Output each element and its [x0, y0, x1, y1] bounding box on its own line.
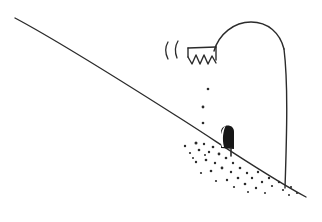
stipple-dot: [203, 143, 205, 145]
ledge-horizontal-bar: [188, 47, 216, 48]
stipple-dot: [210, 170, 213, 173]
stipple-dot: [215, 180, 217, 182]
stipple-dot: [296, 192, 298, 194]
stipple-dot: [208, 151, 210, 153]
paper-background: [0, 0, 322, 222]
stipple-dot: [205, 159, 208, 162]
stipple-dot: [246, 172, 248, 174]
stipple-dot: [184, 145, 186, 147]
stipple-dot: [268, 177, 270, 179]
stipple-dot: [261, 181, 263, 183]
stipple-dot: [257, 171, 259, 173]
stipple-dot: [221, 167, 224, 170]
trail-dot: [202, 106, 205, 109]
stipple-dot: [239, 167, 242, 170]
stipple-dot: [264, 192, 266, 194]
stipple-dot: [282, 189, 284, 191]
stipple-dot: [232, 162, 234, 164]
stipple-dot: [271, 185, 273, 187]
sketch-canvas: [0, 0, 322, 222]
stipple-dot: [247, 191, 249, 193]
stipple-dot: [251, 177, 253, 179]
stipple-dot: [189, 152, 191, 154]
stipple-dot: [244, 183, 247, 186]
stipple-dot: [198, 149, 201, 152]
stipple-dot: [204, 154, 206, 156]
stipple-dot: [290, 186, 292, 188]
stipple-dot: [255, 187, 257, 189]
trail-dot: [207, 88, 210, 91]
stipple-dot: [200, 172, 202, 174]
stipple-dot: [212, 146, 215, 149]
stipple-dot: [218, 153, 221, 156]
stipple-dot: [195, 142, 198, 145]
stipple-dot: [192, 157, 194, 159]
sketch-drawing: [0, 0, 322, 222]
stipple-dot: [237, 177, 240, 180]
stipple-dot: [225, 157, 228, 160]
stipple-dot: [226, 179, 228, 181]
stipple-dot: [278, 181, 280, 183]
stipple-dot: [233, 186, 235, 188]
stipple-dot: [230, 171, 232, 173]
trail-dot: [202, 122, 205, 125]
stipple-dot: [214, 162, 216, 164]
stipple-dot: [195, 161, 197, 163]
stipple-dot: [288, 194, 290, 196]
